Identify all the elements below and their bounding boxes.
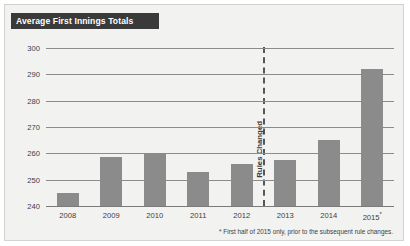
x-axis-tick-label: 2012	[233, 211, 250, 220]
gridline-290: 290	[46, 74, 394, 75]
bar	[144, 153, 166, 206]
bar	[187, 172, 209, 206]
y-axis-tick-label: 290	[27, 70, 40, 79]
gridline-270: 270	[46, 127, 394, 128]
x-axis-tick-label: 2014	[320, 211, 337, 220]
page-title: Average First Innings Totals	[11, 16, 133, 26]
bar	[57, 193, 79, 206]
y-axis-tick-label: 260	[27, 149, 40, 158]
x-axis-tick-label: 2009	[103, 211, 120, 220]
gridline-250: 250	[46, 180, 394, 181]
chart-footnote: * First half of 2015 only, prior to the …	[219, 228, 393, 235]
x-axis-tick-label: 2010	[146, 211, 163, 220]
x-axis-tick-label: 2015*	[363, 211, 382, 222]
gridline-300: 300	[46, 48, 394, 49]
bar	[100, 157, 122, 206]
chart-card: Average First Innings Totals Rules Chang…	[4, 4, 404, 241]
chart-plot-area: Rules Changed 24025026027028029030020082…	[46, 48, 394, 206]
y-axis-tick-label: 240	[27, 202, 40, 211]
y-axis-tick-label: 250	[27, 175, 40, 184]
gridline-240: 240	[46, 206, 394, 207]
gridline-280: 280	[46, 101, 394, 102]
y-axis-tick-label: 270	[27, 123, 40, 132]
bar	[318, 140, 340, 206]
bar	[361, 69, 383, 206]
x-axis-tick-label: 2011	[190, 211, 206, 220]
bar	[274, 160, 296, 206]
chart-title-bar: Average First Innings Totals	[11, 13, 159, 29]
y-axis-tick-label: 280	[27, 96, 40, 105]
bar	[231, 164, 253, 206]
x-axis-tick-label: 2008	[59, 211, 76, 220]
rules-changed-label: Rules Changed	[254, 121, 263, 178]
y-axis-tick-label: 300	[27, 44, 40, 53]
gridline-260: 260	[46, 153, 394, 154]
x-axis-tick-label: 2013	[277, 211, 294, 220]
